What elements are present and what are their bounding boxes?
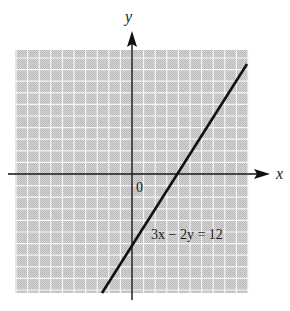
y-axis-label: y — [123, 8, 133, 26]
coordinate-plane: y x 0 3x − 2y = 12 — [0, 0, 290, 311]
x-axis-label: x — [275, 165, 283, 182]
origin-label: 0 — [136, 180, 143, 195]
equation-label: 3x − 2y = 12 — [151, 227, 223, 242]
